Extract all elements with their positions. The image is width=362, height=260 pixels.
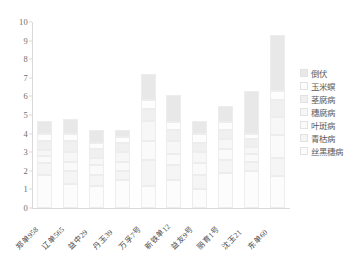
bar-segment[interactable] <box>270 100 285 117</box>
bar-column[interactable] <box>63 22 78 208</box>
bar-segment[interactable] <box>218 160 233 173</box>
bar-segment[interactable] <box>244 139 259 146</box>
bar-segment[interactable] <box>141 100 156 109</box>
legend-label: 叶斑病 <box>311 119 335 131</box>
bar-segment[interactable] <box>115 171 130 180</box>
bar-segment[interactable] <box>192 143 207 152</box>
bar-segment[interactable] <box>63 134 78 141</box>
bar-segment[interactable] <box>89 130 104 143</box>
bar-column[interactable] <box>166 22 181 208</box>
bar-segment[interactable] <box>37 156 52 163</box>
bar-segment[interactable] <box>89 175 104 186</box>
bar-segment[interactable] <box>166 141 181 154</box>
legend-swatch-icon <box>300 108 308 116</box>
bar-segment[interactable] <box>192 152 207 163</box>
bar-segment[interactable] <box>218 149 233 160</box>
bar-segment[interactable] <box>141 141 156 160</box>
bar-column[interactable] <box>89 22 104 208</box>
legend-swatch-icon <box>300 69 308 77</box>
bar-segment[interactable] <box>37 141 52 150</box>
bar-segment[interactable] <box>115 143 130 152</box>
bar-segment[interactable] <box>192 134 207 143</box>
bar-segment[interactable] <box>192 175 207 190</box>
bar-segment[interactable] <box>218 139 233 148</box>
bar-segment[interactable] <box>89 186 104 208</box>
bar-segment[interactable] <box>63 119 78 134</box>
bar-segment[interactable] <box>89 158 104 165</box>
bar-segment[interactable] <box>270 158 285 177</box>
bar-segment[interactable] <box>115 152 130 161</box>
bar-column[interactable] <box>37 22 52 208</box>
bar-segment[interactable] <box>89 149 104 158</box>
bar-segment[interactable] <box>218 106 233 123</box>
bar-segment[interactable] <box>115 162 130 171</box>
bar-segment[interactable] <box>115 180 130 208</box>
y-tick-label: 4 <box>24 129 28 139</box>
bar-segment[interactable] <box>218 122 233 129</box>
bar-segment[interactable] <box>63 141 78 152</box>
stacked-bar-chart: 012345678910 郑单958辽单565益中29丹玉39万孚7号新铁单12… <box>0 0 362 260</box>
bar-segment[interactable] <box>218 130 233 139</box>
bar-segment[interactable] <box>37 134 52 141</box>
bar-segment[interactable] <box>244 154 259 161</box>
bar-segment[interactable] <box>218 173 233 208</box>
legend-item[interactable]: 丝黑穗病 <box>300 144 362 157</box>
x-tick-label: 郑单958 <box>12 223 40 251</box>
bar-segment[interactable] <box>37 175 52 208</box>
bar-segment[interactable] <box>192 189 207 208</box>
bar-segment[interactable] <box>270 117 285 136</box>
bar-segment[interactable] <box>166 154 181 165</box>
y-tick-label: 8 <box>24 54 28 64</box>
legend-label: 青枯病 <box>311 132 335 144</box>
bar-segment[interactable] <box>63 171 78 184</box>
bar-segment[interactable] <box>270 91 285 100</box>
bar-column[interactable] <box>141 22 156 208</box>
legend-item[interactable]: 叶斑病 <box>300 118 362 131</box>
bar-segment[interactable] <box>166 180 181 208</box>
bar-segment[interactable] <box>244 162 259 171</box>
bar-column[interactable] <box>218 22 233 208</box>
bar-segment[interactable] <box>89 165 104 174</box>
bar-segment[interactable] <box>141 74 156 100</box>
bar-segment[interactable] <box>270 176 285 208</box>
bar-segment[interactable] <box>63 184 78 208</box>
legend-swatch-icon <box>300 134 308 142</box>
bar-segment[interactable] <box>244 91 259 134</box>
bar-segment[interactable] <box>192 163 207 174</box>
bar-segment[interactable] <box>270 35 285 91</box>
bar-segment[interactable] <box>141 121 156 141</box>
x-tick-label: 丹玉39 <box>90 226 115 251</box>
bar-segment[interactable] <box>166 165 181 180</box>
bar-segment[interactable] <box>244 147 259 154</box>
bar-segment[interactable] <box>244 171 259 208</box>
bar-column[interactable] <box>270 22 285 208</box>
legend-item[interactable]: 青枯病 <box>300 131 362 144</box>
bar-segment[interactable] <box>37 163 52 174</box>
legend-label: 玉米螟 <box>311 80 335 92</box>
bar-segment[interactable] <box>141 109 156 120</box>
bar-column[interactable] <box>115 22 130 208</box>
bar-segment[interactable] <box>166 122 181 129</box>
bar-segment[interactable] <box>166 95 181 123</box>
bar-segment[interactable] <box>192 121 207 134</box>
legend-label: 穗腐病 <box>311 106 335 118</box>
x-tick-label: 沈玉21 <box>219 226 244 251</box>
legend-item[interactable]: 穗腐病 <box>300 105 362 118</box>
bar-column[interactable] <box>192 22 207 208</box>
bar-column[interactable] <box>244 22 259 208</box>
legend-item[interactable]: 倒伏 <box>300 66 362 79</box>
bar-segment[interactable] <box>115 130 130 137</box>
legend-item[interactable]: 茎腐病 <box>300 92 362 105</box>
bar-segment[interactable] <box>63 152 78 161</box>
bar-segment[interactable] <box>270 135 285 157</box>
bar-segment[interactable] <box>166 130 181 141</box>
bar-segment[interactable] <box>63 162 78 171</box>
bar-segment[interactable] <box>141 160 156 186</box>
y-tick-label: 10 <box>19 17 28 27</box>
y-tick-label: 2 <box>24 166 28 176</box>
legend-item[interactable]: 玉米螟 <box>300 79 362 92</box>
y-tick-label: 3 <box>24 147 28 157</box>
bar-segment[interactable] <box>141 186 156 208</box>
bar-segment[interactable] <box>37 121 52 134</box>
legend-swatch-icon <box>300 147 308 155</box>
